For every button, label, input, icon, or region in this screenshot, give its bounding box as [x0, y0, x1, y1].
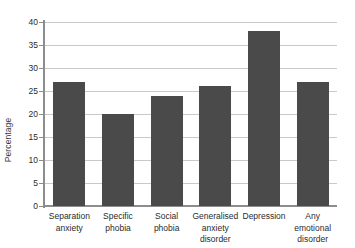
y-tick: 40: [0, 18, 38, 27]
y-tick-label: 15: [4, 133, 38, 142]
gridline: [45, 91, 337, 92]
y-tick-label: 10: [4, 156, 38, 165]
y-tick: 35: [0, 41, 38, 50]
y-tick-mark: [39, 22, 44, 23]
y-tick-mark: [39, 160, 44, 161]
y-tick-label: 35: [4, 41, 38, 50]
y-tick-label: 40: [4, 18, 38, 27]
bar: [248, 31, 280, 206]
gridline: [45, 22, 337, 23]
x-tick-label-line: anxiety: [183, 223, 247, 235]
plot-area: [45, 22, 337, 206]
y-tick: 20: [0, 110, 38, 119]
y-tick: 30: [0, 64, 38, 73]
y-tick-mark: [39, 206, 44, 207]
y-tick-mark: [39, 68, 44, 69]
y-tick: 10: [0, 156, 38, 165]
y-tick-mark: [39, 45, 44, 46]
y-tick-label: 5: [4, 179, 38, 188]
x-tick-label: Anyemotionaldisorder: [281, 211, 345, 246]
y-tick: 0: [0, 202, 38, 211]
gridline: [45, 68, 337, 69]
bar-chart: Percentage 0510152025303540 Separationan…: [0, 0, 355, 248]
y-tick-label: 25: [4, 87, 38, 96]
x-tick-label-line: disorder: [281, 234, 345, 246]
gridline: [45, 137, 337, 138]
x-tick-label-line: Any: [281, 211, 345, 223]
y-tick-label: 20: [4, 110, 38, 119]
y-tick-label: 30: [4, 64, 38, 73]
y-tick-mark: [39, 183, 44, 184]
gridline: [45, 114, 337, 115]
x-tick-label-line: disorder: [183, 234, 247, 246]
bar: [102, 114, 134, 206]
y-tick-label: 0: [4, 202, 38, 211]
y-tick-mark: [39, 114, 44, 115]
bar: [297, 82, 329, 206]
bar: [53, 82, 85, 206]
bar: [199, 86, 231, 206]
y-tick-mark: [39, 137, 44, 138]
y-tick-mark: [39, 91, 44, 92]
bar: [151, 96, 183, 206]
y-tick: 15: [0, 133, 38, 142]
gridline: [45, 160, 337, 161]
y-tick: 25: [0, 87, 38, 96]
gridline: [45, 45, 337, 46]
gridline: [45, 183, 337, 184]
y-tick: 5: [0, 179, 38, 188]
x-tick-label-line: emotional: [281, 223, 345, 235]
